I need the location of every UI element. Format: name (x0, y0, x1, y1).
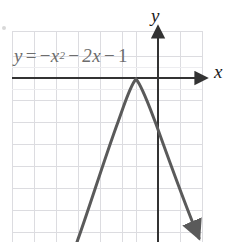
equation-term1-base: x (51, 46, 60, 65)
equation-term1-sign: − (40, 46, 51, 65)
graph-canvas (0, 0, 237, 242)
parabola-curve (77, 79, 199, 242)
y-axis-label: y (151, 6, 159, 25)
parabola-figure: y = − x 2 − 2x − 1 y x (0, 0, 237, 242)
equation-term2-sign: − (65, 46, 82, 65)
equation-term2: 2x (82, 46, 101, 65)
equation-term3: 1 (118, 46, 128, 65)
equation-lhs: y (14, 46, 23, 65)
equation-annotation: y = − x 2 − 2x − 1 (14, 42, 154, 68)
x-axis-label: x (214, 62, 222, 81)
equation-equals: = (23, 46, 40, 65)
equation-term3-sign: − (101, 46, 118, 65)
